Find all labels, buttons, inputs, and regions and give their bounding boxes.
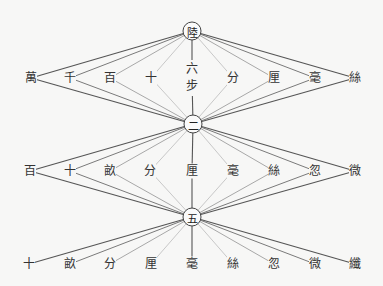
unit-label: 畝 — [104, 164, 116, 179]
circle-node-bot: 五 — [183, 208, 202, 227]
unit-label: 百 — [104, 71, 116, 86]
connector-line — [192, 217, 315, 264]
unit-label: 千 — [64, 71, 76, 86]
connector-line — [70, 78, 193, 124]
unit-label: 百 — [24, 164, 36, 179]
connector-line — [70, 124, 193, 171]
circle-node-top: 陸 — [183, 22, 202, 41]
unit-label: 絲 — [349, 71, 361, 86]
circle-node-mid: 二 — [184, 115, 203, 134]
unit-label: 毫 — [227, 164, 239, 179]
unit-label: 萬 — [25, 71, 37, 86]
unit-label: 厘 — [145, 257, 157, 272]
unit-label: 畝 — [64, 257, 76, 272]
unit-label: 十 — [23, 257, 35, 272]
connector-line — [193, 124, 315, 171]
unit-label: 纖 — [349, 257, 361, 272]
unit-label: 十 — [64, 164, 76, 179]
connector-line — [192, 31, 315, 78]
unit-label: 十 — [145, 71, 157, 86]
connector-line — [192, 171, 315, 217]
unit-label: 厘 — [186, 164, 198, 179]
connector-line — [70, 31, 192, 78]
unit-label: 忽 — [309, 164, 321, 179]
unit-label: 微 — [349, 164, 361, 179]
fan-diagram: 萬千百十六步分厘毫絲百十畝分厘毫絲忽微十畝分厘毫絲忽微纖 陸二五 — [0, 0, 383, 286]
connector-line — [193, 78, 315, 124]
unit-label: 分 — [144, 164, 156, 179]
unit-label: 分 — [227, 71, 239, 86]
unit-label: 絲 — [227, 257, 239, 272]
connector-line — [70, 217, 192, 264]
unit-label: 微 — [309, 257, 321, 272]
unit-label: 六步 — [186, 60, 198, 96]
unit-label: 厘 — [268, 71, 280, 86]
unit-label: 毫 — [309, 71, 321, 86]
unit-label: 忽 — [268, 257, 280, 272]
unit-label: 分 — [104, 257, 116, 272]
unit-label: 絲 — [268, 164, 280, 179]
unit-label: 毫 — [186, 257, 198, 272]
connector-lines — [0, 0, 383, 286]
connector-line — [70, 171, 192, 217]
